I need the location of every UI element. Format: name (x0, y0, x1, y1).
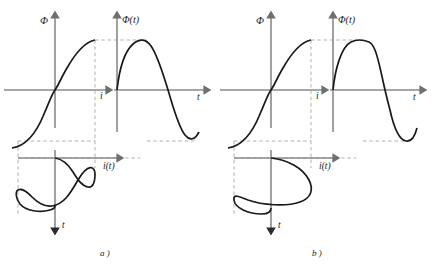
panel-a-current-time-label: t (62, 220, 65, 230)
panel-b-current-axis-label: i (316, 91, 319, 101)
panel-a-flux-of-t-label: Φ(t) (122, 14, 140, 26)
panel-a-caption: a ) (100, 248, 110, 258)
panel-b-flux-axis-label: Φ (256, 15, 264, 26)
panel-a-flux-waveform-axes (114, 17, 205, 132)
panel-b-current-time-label: t (278, 220, 281, 230)
panel-b: Φ i Φ(t) t i(t) t (220, 14, 421, 230)
waveform-construction-diagram: Φ i Φ(t) t i(t) t (0, 0, 432, 273)
panel-a-current-of-t-label: i(t) (103, 161, 115, 172)
panel-a: Φ i Φ(t) t i(t) t (4, 14, 205, 230)
panel-a-magnetization-axes (4, 17, 107, 128)
panel-b-caption: b ) (312, 248, 322, 258)
panel-b-current-waveform-curve (234, 158, 311, 214)
panel-b-flux-of-t-label: Φ(t) (338, 14, 356, 26)
panel-b-flux-waveform-axes (330, 17, 421, 132)
panel-a-current-axis-label: i (100, 91, 103, 101)
panel-b-magnetization-curve (228, 40, 311, 148)
panel-a-flux-axis-label: Φ (40, 15, 48, 26)
panel-b-current-of-t-label: i(t) (319, 161, 331, 172)
panel-a-flux-time-label: t (197, 92, 200, 102)
figure-container: Φ i Φ(t) t i(t) t (0, 0, 432, 273)
panel-a-magnetization-curve (12, 40, 95, 148)
panel-b-magnetization-axes (220, 17, 323, 128)
panel-b-flux-time-label: t (413, 92, 416, 102)
